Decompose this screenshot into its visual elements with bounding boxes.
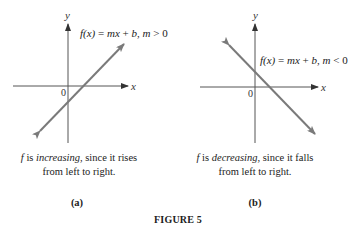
- panel-a-function-line: [40, 44, 124, 131]
- plus: +: [300, 54, 312, 66]
- panel-a-y-axis-label: y: [65, 10, 70, 21]
- equals: =: [275, 54, 287, 66]
- panel-a-x-axis-label: x: [131, 81, 136, 92]
- panel-b-axes: [200, 24, 318, 143]
- panel-b-origin-label: 0: [248, 89, 253, 99]
- caption-is: is: [24, 152, 36, 163]
- fx: f(x): [260, 54, 275, 66]
- equals: =: [95, 27, 107, 39]
- fx: f(x): [80, 27, 95, 39]
- caption-term: increasing: [36, 152, 80, 163]
- caption-term: decreasing: [212, 152, 258, 163]
- panel-b-y-axis-label: y: [253, 10, 258, 21]
- panel-a-caption: f is increasing, since it rises from lef…: [0, 151, 164, 179]
- panel-b-label: (b): [235, 197, 275, 208]
- figure-graphs: [0, 0, 356, 232]
- panel-b-caption: f is decreasing, since it falls from lef…: [170, 151, 340, 179]
- figure-title: FIGURE 5: [0, 214, 356, 225]
- condition: > 0: [150, 27, 167, 39]
- caption-rest: , since it falls: [257, 152, 313, 163]
- mx: mx: [107, 27, 120, 39]
- panel-a-function-label: f(x) = mx + b, m > 0: [80, 27, 168, 39]
- caption-line2: from left to right.: [43, 166, 116, 177]
- panel-a-origin-label: 0: [61, 88, 66, 98]
- panel-b-x-axis-label: x: [321, 82, 326, 93]
- panel-b-function-label: f(x) = mx + b, m < 0: [260, 54, 348, 66]
- panel-a-axes: [13, 24, 128, 143]
- condition: < 0: [330, 54, 347, 66]
- mx: mx: [287, 54, 300, 66]
- caption-is: is: [199, 152, 211, 163]
- panel-a-label: (a): [57, 197, 97, 208]
- plus: +: [120, 27, 132, 39]
- caption-rest: , since it rises: [80, 152, 137, 163]
- caption-line2: from left to right.: [219, 166, 292, 177]
